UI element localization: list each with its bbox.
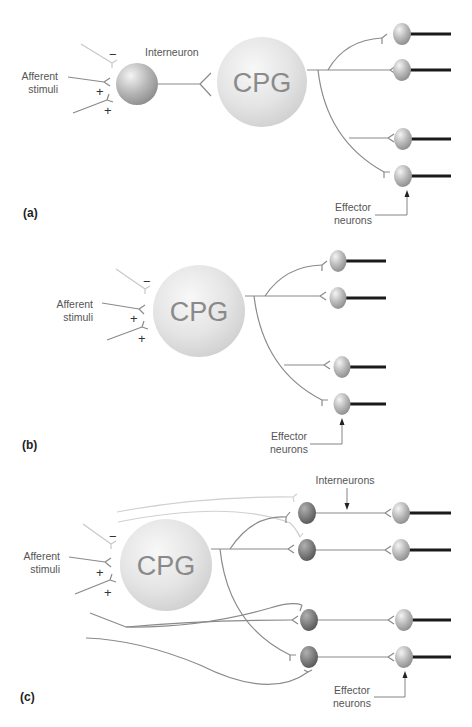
effector-neurons-label: Effector (335, 201, 371, 213)
cpg-output-axons-a (307, 34, 396, 178)
effector-neuron (395, 646, 413, 668)
interneuron-sphere (116, 63, 158, 105)
interneurons-c (298, 502, 394, 668)
cpg-diagram: − + + Afferent stimuli Interneuron CPG (0, 0, 472, 727)
arrow-down-icon (345, 503, 350, 510)
inhibitory-sign: − (143, 274, 151, 289)
afferent-stimuli-label: stimuli (30, 563, 60, 575)
synapse-terminal-icon (107, 94, 113, 102)
afferent-stimuli-label: stimuli (63, 311, 93, 323)
effector-neuron (394, 165, 412, 187)
cpg-label: CPG (170, 297, 229, 327)
inhibitory-afferent-axon (81, 44, 112, 63)
effector-neuron (393, 23, 411, 45)
cpg-output-axons-b (245, 261, 330, 406)
interneuron-sphere (300, 609, 318, 631)
afferent-stimuli-label: Afferent (23, 550, 60, 562)
effector-neurons-label: neurons (333, 697, 371, 709)
excitatory-sign: + (96, 84, 104, 99)
interneuron-sphere (298, 502, 316, 524)
effector-pointer-line (310, 421, 342, 444)
feedback-axons-bottom (86, 604, 312, 685)
effector-neuron (330, 287, 347, 309)
effector-pointer-line (375, 193, 407, 215)
arrow-up-icon (340, 418, 345, 425)
panel-a: − + + Afferent stimuli Interneuron CPG (21, 23, 451, 226)
effector-neuron (392, 502, 410, 524)
synapse-terminal-icon (104, 78, 110, 86)
excitatory-sign: + (130, 311, 138, 326)
excitatory-sign: + (138, 331, 146, 346)
panel-b: − + + Afferent stimuli CPG (22, 250, 386, 455)
effector-neurons-a (393, 23, 451, 187)
excitatory-sign: + (104, 103, 112, 118)
panel-label-b: (b) (22, 438, 37, 452)
panel-c: − + + Afferent stimuli CPG (20, 474, 451, 709)
excitatory-sign: + (104, 585, 112, 600)
afferent-stimuli-label: Afferent (21, 70, 58, 82)
interneuron-sphere (300, 646, 318, 668)
effector-neuron (392, 539, 410, 561)
excitatory-sign: + (96, 565, 104, 580)
effector-neuron (393, 59, 411, 81)
effector-neurons-label: neurons (334, 214, 372, 226)
effector-neurons-label: Effector (334, 684, 370, 696)
effector-neuron (395, 609, 413, 631)
effector-neuron (334, 356, 351, 378)
interneuron-label: Interneuron (145, 46, 199, 58)
panel-label-a: (a) (23, 206, 38, 220)
interneuron-sphere (298, 539, 316, 561)
effector-neurons-c (392, 502, 451, 668)
excitatory-afferent-axon (73, 100, 107, 113)
afferent-stimuli-label: stimuli (28, 83, 58, 95)
cpg-output-axons-c (211, 512, 296, 661)
effector-neuron (394, 128, 412, 150)
panel-label-c: (c) (20, 690, 35, 704)
cpg-label: CPG (233, 68, 292, 98)
afferent-stimuli-label: Afferent (56, 298, 93, 310)
cpg-label: CPG (137, 551, 196, 581)
effector-neurons-label: Effector (271, 430, 307, 442)
interneuron-to-cpg-axon (158, 73, 211, 96)
effector-neurons-b (330, 250, 387, 415)
interneurons-label: Interneurons (316, 474, 375, 486)
effector-neurons-label: neurons (270, 443, 308, 455)
arrow-up-icon (403, 671, 408, 678)
effector-pointer-line (374, 674, 405, 697)
arrow-up-icon (405, 190, 410, 197)
inhibitory-sign: − (109, 529, 117, 544)
effector-neuron (330, 250, 347, 272)
inhibitory-sign: − (109, 47, 117, 62)
excitatory-afferent-axon (68, 77, 104, 82)
effector-neuron (334, 393, 351, 415)
